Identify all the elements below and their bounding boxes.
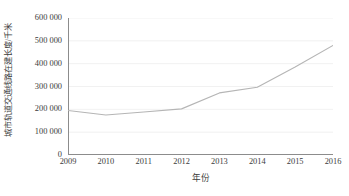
x-axis-tick-label: 2015: [287, 158, 304, 166]
x-axis-tick-label: 2012: [173, 158, 190, 166]
y-axis-tick-label: 300 000: [16, 82, 62, 90]
y-axis-tick-label: 100 000: [16, 128, 62, 136]
y-axis-tick-label: 200 000: [16, 105, 62, 113]
y-axis-title-label: 城市轨道交通线路在建长度/千米: [5, 23, 13, 137]
x-axis-tick-label: 2009: [60, 158, 77, 166]
x-axis-tick-label: 2016: [325, 158, 342, 166]
x-axis-tick-labels: 20092010201120122013201420152016: [0, 158, 349, 172]
x-axis-tick-label: 2011: [135, 158, 151, 166]
line-chart: 城市轨道交通线路在建长度/千米 0100 000200 000300 00040…: [0, 0, 349, 196]
plot-svg: [68, 18, 333, 155]
y-axis-tick-label: 400 000: [16, 59, 62, 67]
y-axis-tick-label: 500 000: [16, 37, 62, 45]
series-line-construction-length: [68, 45, 333, 115]
x-axis-tick-label: 2010: [97, 158, 114, 166]
y-axis-tick-label: 600 000: [16, 14, 62, 22]
x-axis-tick-label: 2014: [249, 158, 266, 166]
plot-area: [68, 18, 333, 155]
x-axis-title: 年份: [68, 174, 333, 183]
x-axis-tick-label: 2013: [211, 158, 228, 166]
